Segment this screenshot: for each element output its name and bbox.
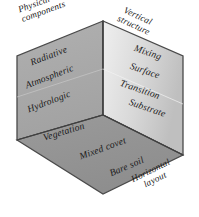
figure-canvas: Physical components Vertical structure H… <box>0 0 199 217</box>
